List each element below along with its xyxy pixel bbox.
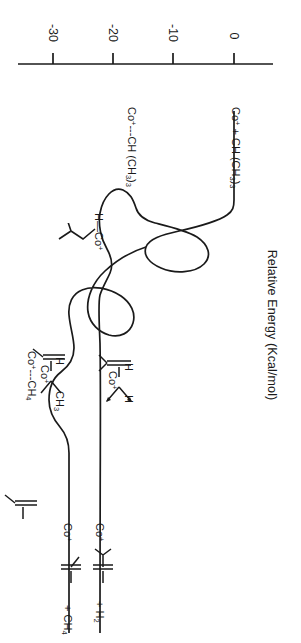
product-isobutene-skeleton — [91, 529, 115, 585]
isobutyl-skeleton — [51, 223, 97, 269]
reactants-co: Co — [230, 107, 242, 121]
prod-ch4-sub: 4 — [60, 630, 69, 634]
adduct-co: Co — [126, 107, 138, 121]
tick-label-30: -30 — [46, 16, 60, 50]
product-propene-skeleton — [59, 535, 83, 585]
reactants-sub-b: 3 — [228, 184, 237, 188]
hco-h: H — [93, 213, 105, 221]
adduct-sub-b: 3 — [124, 183, 133, 187]
label-ch4-complex: Co+---CH4 — [24, 351, 38, 400]
label-product-h2-partner: + H2 — [92, 601, 106, 623]
ch4c-ch4: CH — [26, 380, 38, 396]
prod-ch4-sep: + CH — [62, 605, 74, 630]
tick-label-10: -10 — [166, 16, 180, 50]
mh-ch3-sub: 3 — [52, 407, 61, 411]
reaction-coordinate-figure: Relative Energy (Kcal/mol) 0 -10 -20 -30… — [0, 0, 301, 643]
hco-charge: + — [96, 246, 105, 250]
reactants-rest: + CH (CH — [230, 125, 242, 176]
label-adduct: Co+---CH (CH3)3 — [124, 107, 138, 187]
adduct-dash: ---CH (CH — [126, 125, 138, 174]
energy-profile-svg — [0, 0, 301, 643]
label-reactants: Co+ + CH (CH3)3 — [228, 107, 242, 188]
ch4complex-propene-skeleton — [3, 471, 43, 523]
energy-axis — [18, 53, 273, 64]
label-product-ch4-partner: + CH4 — [60, 605, 74, 635]
prod-h2-sub: 2 — [92, 618, 101, 622]
ch4c-dash: --- — [26, 369, 38, 380]
dihydride-bonds-and-isobutene — [97, 351, 141, 407]
y-axis-title: Relative Energy (Kcal/mol) — [265, 235, 279, 415]
tick-label-20: -20 — [106, 16, 120, 50]
prod-h2-sep: + H — [94, 601, 106, 618]
tick-label-0: 0 — [227, 21, 241, 51]
h2-pathway-curve — [99, 189, 234, 633]
ch4c-co: Co — [26, 351, 38, 365]
ch4c-ch4-sub: 4 — [24, 396, 33, 400]
